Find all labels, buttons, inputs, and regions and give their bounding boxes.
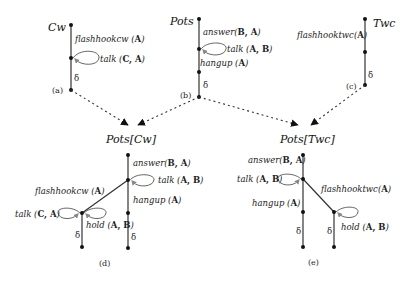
label-talk-ab: talk (A, B) <box>158 175 203 186</box>
diagram-canvas: Cw flashhookcw (A) talk (C, A) δ (a) Pot… <box>0 0 404 284</box>
caption-e: (e) <box>308 258 319 267</box>
label-flashhookcw: flashhookcw (A) <box>34 186 104 196</box>
label-delta: δ <box>327 226 332 236</box>
caption-a: (a) <box>52 86 63 95</box>
label-answer: answer(B, A) <box>248 155 306 166</box>
label-talk-ca: talk (C, A) <box>100 54 145 65</box>
diagram-a-cw: Cw flashhookcw (A) talk (C, A) δ (a) <box>48 21 145 95</box>
label-delta: δ <box>74 73 79 83</box>
label-delta: δ <box>75 230 80 240</box>
label-hold-ab: hold (A, B) <box>86 220 134 231</box>
composition-diagram: Cw flashhookcw (A) talk (C, A) δ (a) Pot… <box>0 0 404 284</box>
title-cw: Cw <box>48 21 66 34</box>
label-delta: δ <box>203 80 208 90</box>
label-talk-ab: talk (A, B) <box>227 44 272 55</box>
label-answer: answer(B, A) <box>133 158 191 169</box>
caption-b: (b) <box>180 91 191 100</box>
label-delta: δ <box>368 70 373 80</box>
label-hangup: hangup (A) <box>133 195 181 205</box>
label-talk-ab: talk (A, B) <box>237 174 282 185</box>
title-pots: Pots <box>169 15 194 28</box>
label-flashhooktwc: flashhooktwc(A) <box>320 184 391 194</box>
label-hold-ab: hold (A, B) <box>341 222 389 233</box>
diagram-e-pots-twc: Pots[Twc] answer(B, A) talk (A, B) hangu… <box>237 133 391 267</box>
label-delta: δ <box>131 232 136 242</box>
title-twc: Twc <box>373 17 396 30</box>
label-talk-ca: talk (C, A) <box>15 209 60 220</box>
composition-arrows <box>71 85 365 125</box>
diagram-d-pots-cw: Pots[Cw] answer(B, A) talk (A, B) hangup… <box>15 133 203 268</box>
label-answer: answer(B, A) <box>203 27 261 38</box>
title-pots-twc: Pots[Twc] <box>279 133 335 146</box>
label-flashhooktwc: flashhooktwc(A) <box>296 30 367 40</box>
label-flashhookcw: flashhookcw (A) <box>74 34 144 44</box>
label-delta: δ <box>296 226 301 236</box>
label-hangup: hangup (A) <box>252 198 300 208</box>
caption-c: (c) <box>346 82 357 91</box>
diagram-c-twc: Twc flashhooktwc(A) δ (c) <box>296 17 396 91</box>
label-hangup: hangup (A) <box>200 58 248 68</box>
caption-d: (d) <box>99 259 110 268</box>
title-pots-cw: Pots[Cw] <box>105 133 157 146</box>
diagram-b-pots: Pots answer(B, A) talk (A, B) hangup (A)… <box>169 15 272 100</box>
